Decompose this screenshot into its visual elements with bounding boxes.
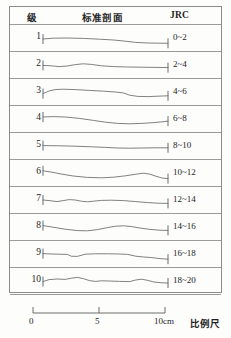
grade-label: 3: [17, 85, 41, 95]
grade-label: 6: [17, 166, 41, 176]
jrc-value: 14~16: [173, 221, 196, 231]
profile-path: [43, 277, 168, 283]
scale-bar-row: 0 5 10cm 比例尺: [10, 294, 221, 332]
table-row: 916~18: [10, 240, 221, 267]
jrc-value: 16~18: [173, 248, 196, 258]
grade-label: 8: [17, 220, 41, 230]
profile-path: [43, 254, 168, 260]
roughness-profile-curve: [43, 268, 168, 295]
column-header-grade: 级: [27, 10, 37, 24]
profile-path: [43, 171, 168, 179]
scale-caption: 比例尺: [190, 316, 220, 330]
table-header-row: 级 标准剖面 JRC: [10, 7, 221, 24]
table-row: 712~14: [10, 186, 221, 213]
scale-tick-5: 5: [95, 316, 100, 326]
grade-label: 4: [17, 112, 41, 122]
jrc-value: 18~20: [173, 275, 196, 285]
roughness-profile-curve: [43, 133, 168, 160]
grade-label: 9: [17, 247, 41, 257]
jrc-value: 4~6: [173, 86, 187, 96]
column-header-standard-profile: 标准剖面: [82, 10, 123, 24]
table-row: 58~10: [10, 132, 221, 159]
table-row: 814~16: [10, 213, 221, 240]
roughness-profile-curve: [43, 187, 168, 214]
table-row: 1018~20: [10, 267, 221, 294]
table-row: 46~8: [10, 105, 221, 132]
jrc-value: 12~14: [173, 194, 196, 204]
profile-path: [43, 226, 168, 231]
grade-label: 5: [17, 139, 41, 149]
jrc-value: 8~10: [173, 140, 191, 150]
roughness-profile-curve: [43, 52, 168, 79]
jrc-standard-profile-chart: 级 标准剖面 JRC 10~222~434~646~858~10610~1271…: [0, 0, 231, 338]
profile-path: [43, 117, 168, 124]
profile-path: [43, 200, 168, 204]
roughness-profile-curve: [43, 241, 168, 268]
profile-path: [43, 146, 168, 149]
roughness-profile-curve: [43, 79, 168, 106]
table-row: 10~2: [10, 24, 221, 51]
roughness-profile-curve: [43, 25, 168, 52]
jrc-table: 级 标准剖面 JRC 10~222~434~646~858~10610~1271…: [9, 6, 222, 293]
roughness-profile-curve: [43, 214, 168, 241]
column-header-jrc: JRC: [170, 10, 189, 20]
jrc-value: 2~4: [173, 59, 187, 69]
profile-path: [43, 38, 168, 43]
grade-label: 1: [17, 31, 41, 41]
scale-tick-10cm: 10cm: [154, 316, 174, 326]
grade-label: 2: [17, 58, 41, 68]
roughness-profile-curve: [43, 160, 168, 187]
profile-path: [43, 89, 168, 96]
jrc-value: 0~2: [173, 32, 187, 42]
table-row: 34~6: [10, 78, 221, 105]
jrc-value: 6~8: [173, 113, 187, 123]
grade-label: 10: [17, 274, 41, 284]
profile-path: [43, 64, 168, 68]
roughness-profile-curve: [43, 106, 168, 133]
scale-tick-0: 0: [29, 316, 34, 326]
profile-rows-container: 10~222~434~646~858~10610~12712~14814~169…: [10, 24, 221, 294]
grade-label: 7: [17, 193, 41, 203]
jrc-value: 10~12: [173, 167, 196, 177]
table-row: 610~12: [10, 159, 221, 186]
table-row: 22~4: [10, 51, 221, 78]
